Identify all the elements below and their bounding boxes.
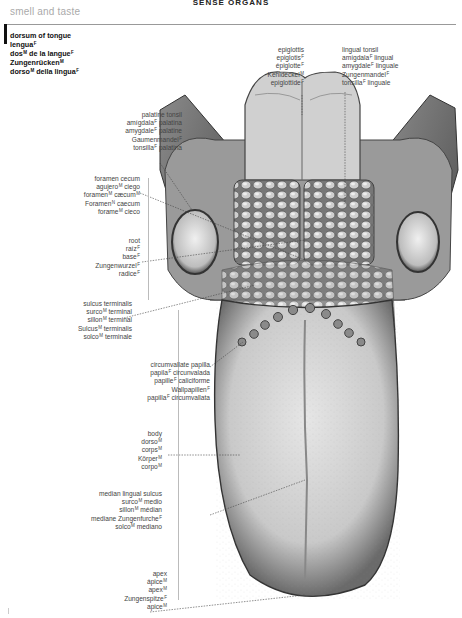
label-apex: apex ápiceM apexM ZungenspitzeF apiceM xyxy=(124,570,167,611)
label-circumvallate-papilla: circumvallate papilla papilaF circunvala… xyxy=(147,361,210,402)
label-epiglottis: epiglottis epiglotisF épiglotteF Kehldec… xyxy=(267,46,304,87)
label-lingual-tonsil: lingual tonsil amígdalaF lingual amygdal… xyxy=(342,46,398,87)
page-marker xyxy=(8,608,9,614)
bracket-root xyxy=(148,178,149,300)
label-body: body dorsoM corpsM KörperM corpoM xyxy=(138,430,162,471)
label-median-lingual-sulcus: median lingual sulcus surcoM medio sillo… xyxy=(91,490,162,531)
label-sulcus-terminalis: sulcus terminalis surcoM terminal sillon… xyxy=(78,300,132,341)
label-palatine-tonsil: palatine tonsil amígdalaF palatina amygd… xyxy=(125,111,182,152)
label-root: root raízF baseF ZungenwurzelF radiceF xyxy=(95,237,140,278)
leader-lines xyxy=(0,0,462,618)
bracket-body xyxy=(178,310,179,600)
label-foramen-cecum: foramen cecum agujeroM ciego foramenM cæ… xyxy=(84,175,140,216)
